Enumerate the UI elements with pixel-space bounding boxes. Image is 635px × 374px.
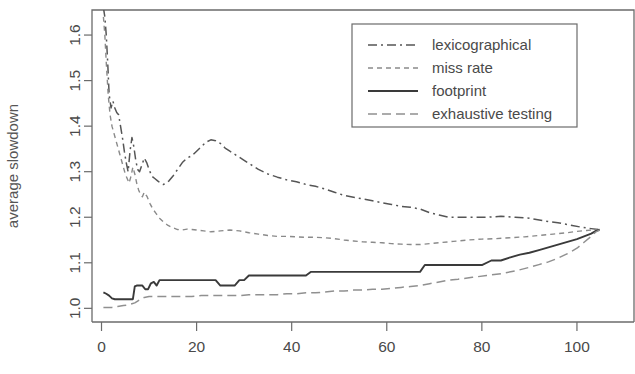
x-axis-tick-label: 20 <box>188 338 206 355</box>
legend-label-exhaustive-testing: exhaustive testing <box>432 105 552 122</box>
y-axis-label: average slowdown <box>4 104 21 228</box>
y-axis-tick-label: 1.4 <box>66 115 83 137</box>
y-axis-tick-label: 1.5 <box>66 70 83 92</box>
series-line-exhaustive-testing <box>103 230 599 307</box>
y-axis-tick-label: 1.3 <box>66 161 83 183</box>
x-axis-tick-label: 60 <box>378 338 396 355</box>
y-axis-tick-label: 1.1 <box>66 252 83 274</box>
line-chart: 1.01.11.21.31.41.51.6020406080100 averag… <box>0 0 635 374</box>
chart-figure: 1.01.11.21.31.41.51.6020406080100 averag… <box>0 0 635 374</box>
legend-label-footprint: footprint <box>432 82 487 99</box>
x-axis-tick-label: 40 <box>283 338 301 355</box>
y-axis-tick-label: 1.2 <box>66 206 83 228</box>
y-axis-tick-label: 1.6 <box>66 24 83 46</box>
y-axis-tick-label: 1.0 <box>66 297 83 319</box>
y-axis-title: average slowdown <box>4 104 21 228</box>
x-axis-tick-label: 0 <box>97 338 106 355</box>
legend-label-lexicographical: lexicographical <box>432 36 531 53</box>
legend-label-miss-rate: miss rate <box>432 59 493 76</box>
chart-legend: lexicographicalmiss ratefootprintexhaust… <box>352 24 577 127</box>
x-axis-tick-label: 100 <box>564 338 590 355</box>
series-line-footprint <box>103 230 599 300</box>
x-axis-tick-label: 80 <box>473 338 491 355</box>
